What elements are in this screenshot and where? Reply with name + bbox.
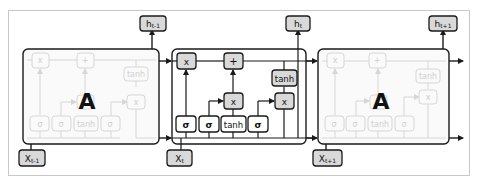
faded-sigma-label: σ — [107, 120, 112, 129]
gate-sigma-forget: σ — [176, 116, 196, 132]
cell-next: x + tanh x σ σ tanh σ A — [318, 49, 449, 144]
cell-label-a: A — [372, 89, 389, 114]
input-x-prev: Xt-1 — [19, 150, 45, 166]
op-tanh-out: tanh — [272, 70, 297, 86]
faded-add-label: + — [374, 56, 381, 65]
svg-text:x: x — [231, 97, 237, 107]
cell-label-a: A — [78, 89, 95, 114]
op-mul-output: x — [275, 93, 294, 109]
faded-sigma-label: σ — [401, 120, 406, 129]
faded-mul-label: x — [38, 56, 43, 65]
input-x-next: Xt+1 — [313, 150, 342, 166]
faded-tanh-label: tanh — [77, 120, 95, 129]
gate-sigma-input: σ — [199, 116, 219, 132]
svg-text:σ: σ — [205, 120, 212, 130]
faded-add-label: + — [82, 56, 89, 65]
op-add-cell: + — [224, 53, 243, 69]
svg-text:+: + — [229, 56, 237, 67]
svg-text:σ: σ — [182, 120, 189, 130]
faded-tanh-label: tanh — [371, 120, 389, 129]
faded-sigma-label: σ — [58, 120, 63, 129]
faded-sigma-label: σ — [352, 120, 357, 129]
svg-text:σ: σ — [254, 120, 261, 130]
gate-tanh-candidate: tanh — [221, 116, 246, 132]
faded-tanh-label: tanh — [127, 70, 145, 79]
svg-text:tanh: tanh — [275, 74, 294, 84]
svg-text:tanh: tanh — [224, 120, 243, 130]
cell-current: x + x tanh x σ σ tanh — [172, 30, 316, 150]
gate-sigma-output: σ — [248, 116, 268, 132]
output-h-current: ht — [286, 16, 310, 31]
op-mul-input: x — [224, 93, 243, 109]
faded-sigma-label: σ — [37, 120, 42, 129]
svg-text:x: x — [282, 97, 288, 107]
svg-text:x: x — [184, 57, 190, 67]
faded-mul-label: x — [426, 93, 431, 102]
op-mul-forget: x — [177, 53, 196, 69]
output-h-prev: ht-1 — [140, 16, 166, 31]
faded-mul-label: x — [333, 56, 338, 65]
faded-tanh-label: tanh — [419, 72, 437, 81]
input-x-current: Xt — [167, 150, 192, 166]
faded-sigma-label: σ — [331, 120, 336, 129]
faded-mul-label: x — [134, 98, 139, 107]
output-h-next: ht+1 — [429, 16, 457, 31]
cell-prev: x + tanh x σ σ tanh σ A — [23, 49, 159, 144]
lstm-diagram: x + tanh x σ σ tanh σ A ht-1 Xt-1 — [0, 0, 480, 186]
